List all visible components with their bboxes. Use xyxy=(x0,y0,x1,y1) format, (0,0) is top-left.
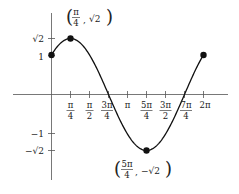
xtick-label-2pi: 2π xyxy=(200,100,211,110)
svg-text:): ) xyxy=(106,6,113,27)
xtick-label-pi-2: π 2 xyxy=(86,100,94,121)
svg-text:5π: 5π xyxy=(122,159,133,169)
svg-text:π: π xyxy=(87,100,93,110)
xtick-label-3pi-4: 3π 4 xyxy=(101,100,113,121)
svg-text:4: 4 xyxy=(183,111,188,121)
svg-text:4: 4 xyxy=(73,18,78,28)
svg-text:,: , xyxy=(83,15,86,25)
xtick-label-pi-4: π 4 xyxy=(67,100,75,121)
svg-text:−√2: −√2 xyxy=(141,166,160,176)
xtick-label-3pi-2: 3π 2 xyxy=(160,100,172,121)
annotation-min-point: ( 5π 4 , −√2 ) xyxy=(114,158,172,180)
svg-text:7π: 7π xyxy=(181,100,192,110)
point-start xyxy=(48,52,54,58)
svg-text:π: π xyxy=(68,100,74,110)
svg-text:): ) xyxy=(165,158,172,179)
point-min xyxy=(143,147,149,153)
svg-text:(: ( xyxy=(114,158,121,179)
svg-text:4: 4 xyxy=(124,170,129,180)
point-end xyxy=(200,52,206,58)
xtick-label-7pi-4: 7π 4 xyxy=(180,100,192,121)
ytick-label-1: 1 xyxy=(38,52,44,62)
ytick-label-neg1: −1 xyxy=(31,129,44,139)
svg-text:,: , xyxy=(135,167,138,177)
svg-text:5π: 5π xyxy=(141,100,152,110)
svg-text:4: 4 xyxy=(144,111,149,121)
svg-text:4: 4 xyxy=(68,111,73,121)
svg-text:π: π xyxy=(73,7,79,17)
svg-text:4: 4 xyxy=(104,111,109,121)
svg-text:√2: √2 xyxy=(89,14,100,24)
xtick-label-pi: π xyxy=(125,100,131,110)
svg-text:(: ( xyxy=(66,6,73,27)
xtick-label-5pi-4: 5π 4 xyxy=(141,100,153,121)
chart: √2 1 −1 −√2 π 4 π 2 3π 4 π 5π 4 3π 2 7π … xyxy=(0,0,239,194)
svg-text:3π: 3π xyxy=(102,100,113,110)
ytick-label-sqrt2: √2 xyxy=(33,34,44,44)
annotation-max-point: ( π 4 , √2 ) xyxy=(66,6,113,28)
svg-text:2: 2 xyxy=(87,111,92,121)
point-max xyxy=(67,35,73,41)
ytick-label-neg-sqrt2: −√2 xyxy=(25,146,44,156)
svg-text:3π: 3π xyxy=(160,100,171,110)
svg-text:2: 2 xyxy=(163,111,168,121)
